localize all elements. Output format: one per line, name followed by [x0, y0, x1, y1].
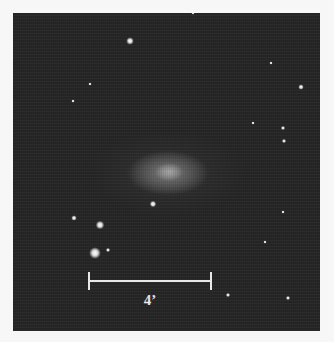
star [282, 211, 285, 214]
scale-bar-right-tick [210, 272, 212, 290]
star [226, 293, 230, 297]
star [264, 241, 267, 244]
star [252, 122, 255, 125]
star [270, 62, 273, 65]
star [90, 248, 101, 259]
star [150, 201, 156, 207]
star [72, 216, 77, 221]
star [72, 100, 75, 103]
star [286, 296, 290, 300]
star [281, 126, 285, 130]
scale-bar-line [88, 280, 212, 282]
star [96, 221, 104, 229]
star [299, 85, 304, 90]
star [282, 139, 286, 143]
scale-bar-label: 4’ [88, 292, 212, 309]
star [127, 38, 134, 45]
star [106, 248, 110, 252]
star [89, 83, 92, 86]
scale-bar [88, 272, 212, 290]
scale-bar-left-tick [88, 272, 90, 290]
